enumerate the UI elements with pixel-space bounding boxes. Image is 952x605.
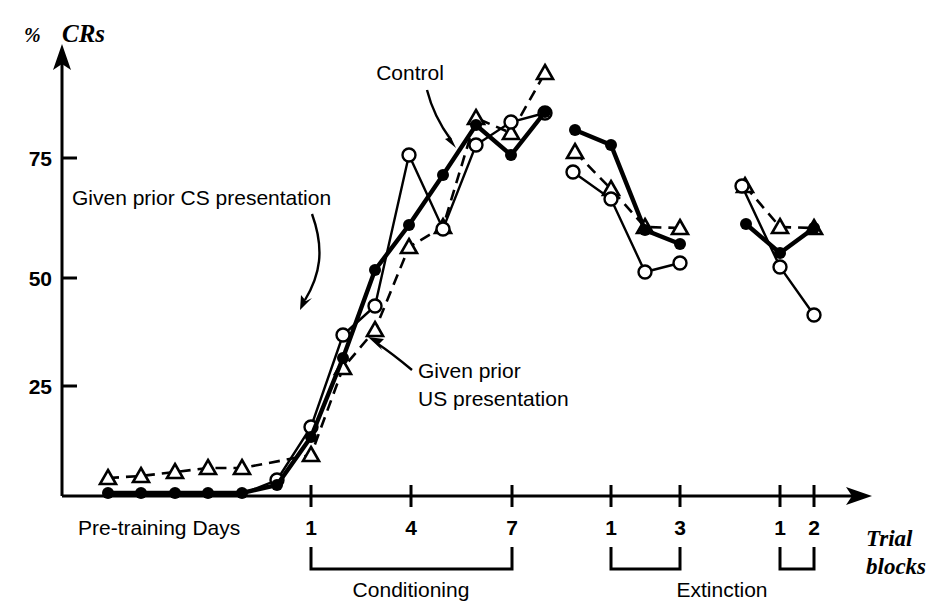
annotation-given-prior-us: Given prior US presentation [368, 337, 569, 410]
y-axis [53, 44, 71, 496]
x-tick-label-cond-4: 4 [405, 516, 417, 539]
chart-figure: 75 50 25 % CRs Trial blocks 1 4 7 1 3 1 … [0, 0, 952, 605]
bracket-conditioning [311, 547, 512, 569]
bracket-label-conditioning: Conditioning [353, 578, 470, 601]
annotation-control-label: Control [376, 61, 444, 84]
x-tick-label-ext2-1: 1 [774, 516, 786, 539]
x-tick-label-cond-7: 7 [506, 516, 518, 539]
series-markers-given-prior-cs [271, 107, 821, 487]
x-tick-label-ext1-1: 1 [605, 516, 617, 539]
chart-svg: 75 50 25 % CRs Trial blocks 1 4 7 1 3 1 … [0, 0, 952, 605]
bracket-extinction-2 [780, 547, 814, 569]
y-tick-label-50: 50 [29, 267, 52, 290]
x-axis-title-line1: Trial [866, 526, 913, 551]
annotation-us-label-1: Given prior [418, 359, 521, 382]
series-line-given-prior-cs [108, 113, 814, 494]
x-tick-label-ext1-3: 3 [674, 516, 686, 539]
x-axis-title-line2: blocks [866, 554, 926, 579]
bracket-label-extinction: Extinction [676, 578, 767, 601]
y-tick-label-25: 25 [29, 375, 53, 398]
y-tick-label-75: 75 [29, 147, 53, 170]
bracket-extinction-1 [611, 547, 680, 569]
y-axis-title: CRs [62, 20, 105, 47]
series-line-given-prior-us [108, 73, 814, 478]
series-markers-given-prior-us [100, 65, 822, 484]
annotation-cs-label: Given prior CS presentation [72, 186, 331, 209]
x-axis [62, 487, 872, 505]
pretraining-label: Pre-training Days [78, 516, 240, 539]
annotation-us-label-2: US presentation [418, 387, 569, 410]
series-line-control [108, 112, 814, 493]
y-axis-unit-label: % [24, 24, 41, 46]
annotation-given-prior-cs: Given prior CS presentation [72, 186, 331, 310]
x-tick-label-ext2-2: 2 [808, 516, 820, 539]
x-tick-label-cond-1: 1 [305, 516, 317, 539]
annotation-control: Control [376, 61, 456, 148]
